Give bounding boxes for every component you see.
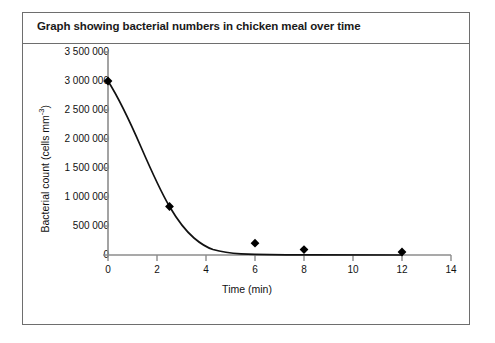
x-tick-marks <box>108 255 451 261</box>
chart-title-band: Graph showing bacterial numbers in chick… <box>23 13 469 44</box>
data-point-marker-2 <box>251 239 260 248</box>
data-point-marker-1 <box>165 202 174 211</box>
x-axis-title: Time (min) <box>23 283 471 295</box>
figure-frame: Graph showing bacterial numbers in chick… <box>22 12 470 325</box>
figure-root: Graph showing bacterial numbers in chick… <box>0 0 495 343</box>
data-point-marker-0 <box>104 77 113 86</box>
chart-title: Graph showing bacterial numbers in chick… <box>37 20 360 32</box>
plot-svg <box>23 44 471 284</box>
data-point-marker-3 <box>300 245 309 254</box>
data-series-line <box>108 81 402 255</box>
plot-region: Bacterial count (cells mm-3) 0 500 000 1… <box>23 44 471 325</box>
